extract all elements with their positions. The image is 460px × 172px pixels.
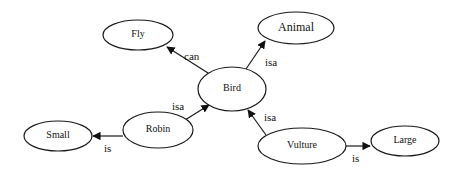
edge-vulture-isa-bird: isa (248, 110, 276, 135)
edge-vulture-is-large: is (346, 146, 370, 164)
node-large: Large (371, 126, 439, 156)
node-label: Vulture (287, 139, 318, 150)
edge-label: isa (172, 100, 184, 112)
node-bird: Bird (198, 67, 266, 111)
edge-robin-is-small: is (93, 136, 123, 154)
node-small: Small (24, 121, 92, 151)
node-label: Small (46, 129, 70, 140)
edge-bird-isa-animal: isa (246, 41, 277, 69)
node-animal: Animal (258, 12, 334, 44)
arrow-line (246, 41, 265, 69)
edge-label: isa (265, 56, 277, 68)
edge-label: isa (264, 111, 276, 123)
node-label: Animal (278, 20, 315, 34)
edge-bird-can-fly: can (167, 47, 208, 73)
node-label: Fly (131, 28, 144, 39)
node-label: Robin (146, 123, 170, 134)
edge-label: is (104, 142, 111, 154)
node-robin: Robin (123, 112, 193, 148)
semantic-network-diagram: can isa isa is isa is Fly Animal Bird Ro… (0, 0, 460, 172)
node-label: Bird (223, 82, 241, 93)
edge-label: can (184, 50, 200, 62)
edge-label: is (352, 152, 359, 164)
node-label: Large (393, 134, 417, 145)
arrow-line (185, 105, 209, 120)
node-vulture: Vulture (258, 128, 346, 164)
node-fly: Fly (103, 20, 173, 50)
